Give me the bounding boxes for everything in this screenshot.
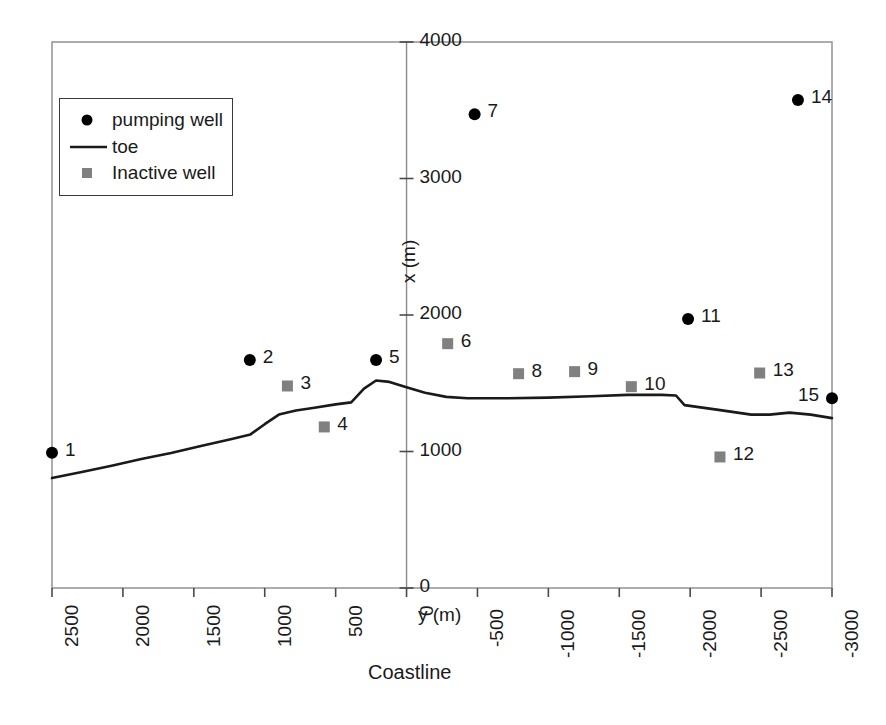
inactive-well-marker	[319, 421, 330, 432]
well-label-7: 7	[488, 100, 499, 122]
x-axis-tick-label: 1500	[203, 605, 225, 647]
well-label-9: 9	[588, 358, 599, 380]
pumping-well-marker	[244, 354, 256, 366]
x-axis-tick-label: 500	[345, 605, 367, 637]
inactive-well-marker	[626, 381, 637, 392]
pumping-well-marker	[682, 313, 694, 325]
y-axis-title: x (m)	[398, 240, 420, 283]
pumping-well-marker	[792, 94, 804, 106]
inactive-well-marker	[754, 368, 765, 379]
pumping-well-marker	[370, 354, 382, 366]
pumping-well-marker	[826, 392, 838, 404]
x-axis-tick-label: -3000	[841, 609, 863, 658]
figure-container: x (m) y (m) Coastline pumping well toe I…	[0, 0, 886, 725]
inactive-well-marker	[513, 368, 524, 379]
well-label-6: 6	[461, 330, 472, 352]
well-label-3: 3	[300, 372, 311, 394]
well-label-15: 15	[798, 384, 819, 406]
legend: pumping well toe Inactive well	[59, 98, 233, 196]
well-label-2: 2	[263, 346, 274, 368]
inactive-well-marker	[282, 380, 293, 391]
y-axis-tick-label: 4000	[420, 29, 462, 51]
y-axis-tick-label: 2000	[420, 302, 462, 324]
legend-square-icon	[82, 168, 92, 178]
inactive-well-marker	[442, 338, 453, 349]
pumping-well-marker	[46, 447, 58, 459]
x-axis-tick-label: -500	[486, 609, 508, 647]
well-label-4: 4	[337, 413, 348, 435]
x-axis-tick-label: -1500	[628, 609, 650, 658]
well-label-10: 10	[644, 373, 665, 395]
x-axis-tick-label: 0	[416, 605, 438, 616]
legend-label-inactive-well: Inactive well	[112, 162, 216, 184]
legend-circle-icon	[82, 115, 93, 126]
y-axis-tick-label: 3000	[420, 166, 462, 188]
x-axis-tick-label: 2500	[61, 605, 83, 647]
y-axis-tick-label: 1000	[420, 439, 462, 461]
x-axis-tick-label: -1000	[557, 609, 579, 658]
pumping-well-marker	[469, 108, 481, 120]
well-label-14: 14	[811, 86, 832, 108]
y-axis-tick-label: 0	[420, 575, 431, 597]
well-label-11: 11	[701, 305, 721, 327]
toe-line	[52, 381, 832, 479]
well-label-13: 13	[773, 359, 794, 381]
x-axis-tick-label: 2000	[132, 605, 154, 647]
legend-label-toe: toe	[112, 136, 138, 158]
inactive-well-marker	[714, 451, 725, 462]
well-label-5: 5	[389, 346, 400, 368]
well-label-12: 12	[733, 443, 754, 465]
inactive-well-marker	[569, 366, 580, 377]
x-axis-tick-label: 1000	[274, 605, 296, 647]
well-label-8: 8	[532, 360, 543, 382]
well-label-1: 1	[65, 439, 76, 461]
x-axis-tick-label: -2000	[699, 609, 721, 658]
x-axis-tick-label: -2500	[770, 609, 792, 658]
legend-label-pumping-well: pumping well	[112, 109, 223, 131]
figure-caption: Coastline	[368, 661, 451, 684]
